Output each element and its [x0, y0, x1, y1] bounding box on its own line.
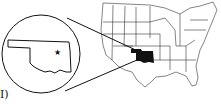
map-figure: ★	[0, 0, 221, 105]
star-icon: ★	[54, 48, 61, 57]
panel-label: I)	[0, 88, 9, 101]
inset-circle	[2, 15, 80, 93]
us-map	[101, 2, 217, 87]
